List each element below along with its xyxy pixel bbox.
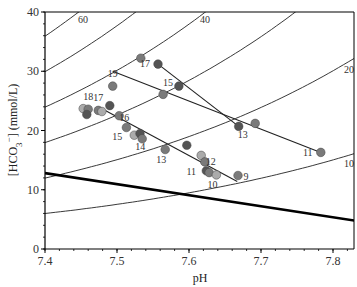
isobar-label-40: 40 <box>200 14 210 25</box>
point-label: 11 <box>303 147 313 158</box>
threshold-line <box>45 173 355 220</box>
x-tick-label: 7.5 <box>110 254 125 268</box>
y-axis-title-sub: 3 <box>14 142 24 147</box>
point-label: 10 <box>207 179 217 190</box>
trajectory-line-2 <box>158 64 239 126</box>
point-label: 17 <box>140 58 150 69</box>
y-tick-label: 0 <box>33 242 39 256</box>
point-labels: 17151311191817161514131211109 <box>83 58 312 190</box>
point-label: 13 <box>238 129 248 140</box>
isobar-label-10: 10 <box>344 158 354 169</box>
data-point <box>234 171 243 180</box>
threshold-line-group <box>45 173 355 220</box>
y-axis-title: [HCO3−] (mmol/L) <box>4 84 24 177</box>
isobar-pco2-50 <box>45 0 354 72</box>
data-point <box>108 82 117 91</box>
y-tick-label: 10 <box>27 183 39 197</box>
y-tick-label: 20 <box>27 124 39 138</box>
data-point <box>175 82 184 91</box>
point-label: 9 <box>244 171 249 182</box>
y-tick-label: 30 <box>27 64 39 78</box>
x-tick-label: 7.8 <box>326 254 341 268</box>
data-point <box>98 107 107 116</box>
y-axis-ticks: 010203040 <box>27 5 45 256</box>
data-point <box>122 123 131 132</box>
x-tick-label: 7.6 <box>182 254 197 268</box>
point-label: 15 <box>163 77 173 88</box>
y-axis-title-close: ] (mmol/L) <box>6 84 20 138</box>
isobar-label-20: 20 <box>344 64 354 75</box>
hco3-ph-chart: 60402010 17151311191817161514131211109 7… <box>0 0 357 287</box>
x-tick-label: 7.7 <box>254 254 269 268</box>
data-point <box>83 110 92 119</box>
isobar-pco2-10 <box>45 154 354 214</box>
isobar-labels: 60402010 <box>78 14 354 169</box>
data-point <box>251 119 260 128</box>
data-point <box>159 90 168 99</box>
x-axis-ticks: 7.47.57.67.77.8 <box>38 249 348 268</box>
point-label: 19 <box>108 68 118 79</box>
point-label: 15 <box>112 131 122 142</box>
data-point <box>106 101 115 110</box>
data-point <box>183 141 192 150</box>
data-point <box>161 145 170 154</box>
point-label: 11 <box>186 166 196 177</box>
data-point <box>317 148 326 157</box>
data-point <box>154 60 163 69</box>
y-tick-label: 40 <box>27 5 39 19</box>
isobar-pco2-20 <box>45 59 354 179</box>
isobar-label-60: 60 <box>78 14 88 25</box>
point-label: 12 <box>206 156 216 167</box>
x-tick-label: 7.4 <box>38 254 53 268</box>
point-label: 18 <box>83 91 93 102</box>
point-label: 13 <box>156 154 166 165</box>
x-axis-title: pH <box>193 271 208 285</box>
y-axis-title-open: [HCO <box>6 147 20 177</box>
point-label: 17 <box>93 92 103 103</box>
point-label: 14 <box>135 141 145 152</box>
point-label: 16 <box>119 112 129 123</box>
